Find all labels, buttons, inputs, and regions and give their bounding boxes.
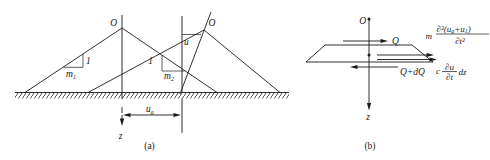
caption-b: (b) [364, 141, 375, 152]
z-arrow-head-a [120, 119, 124, 127]
damping-arrow-head [430, 57, 438, 61]
damping-suffix: dz [459, 67, 468, 77]
z-arrow-head-b [367, 103, 371, 111]
deformed-axis-line [180, 12, 211, 94]
damping-coef: c [436, 66, 440, 76]
z-axis-label-b: z [365, 112, 370, 122]
damping-numerator: ∂u [445, 62, 454, 72]
damping-denominator: ∂t [446, 72, 453, 82]
figure-canvas: O O 1 m1 1 m2 u ug z (a) O Q Q+dQ z [0, 0, 490, 160]
damping-force-formula: c ∂u ∂t dz [436, 62, 467, 83]
q-label: Q [392, 36, 399, 46]
origin-label-b: O [359, 16, 366, 26]
slope-m2-unit-label: 1 [148, 56, 153, 66]
qdq-arrow-head [350, 65, 358, 69]
element-center-dot [368, 54, 371, 57]
inertia-denominator: ∂t² [455, 36, 465, 46]
panel-b: O Q Q+dQ z (b) m ∂²(ug+u1) ∂t² c ∂u ∂t d… [306, 16, 489, 152]
z-axis-label-a: z [118, 131, 123, 141]
inertia-numerator: ∂²(ug+u1) [437, 24, 471, 35]
ground-hatch [15, 93, 289, 99]
inertia-coef: m [426, 31, 433, 41]
dam-shear-wedge-diagram: O O 1 m1 1 m2 u ug z (a) O Q Q+dQ z [0, 0, 490, 160]
slope-m1-label: m1 [66, 69, 76, 80]
inertia-arrow-head [427, 53, 435, 57]
slope-m2-label: m2 [164, 71, 174, 82]
slope-m1-unit-label: 1 [86, 56, 91, 66]
ug-arrow-right [174, 113, 182, 117]
inertia-force-formula: m ∂²(ug+u1) ∂t² [426, 24, 490, 46]
u-displacement-label: u [184, 37, 189, 47]
origin-label-right: O [209, 18, 216, 28]
caption-a: (a) [144, 141, 155, 152]
q-arrow-head [381, 39, 389, 43]
ug-label: ug [146, 104, 154, 115]
origin-label-left: O [110, 18, 117, 28]
qdq-label: Q+dQ [400, 67, 425, 77]
panel-a: O O 1 m1 1 m2 u ug z (a) [15, 12, 289, 152]
ug-arrow-left [123, 113, 131, 117]
